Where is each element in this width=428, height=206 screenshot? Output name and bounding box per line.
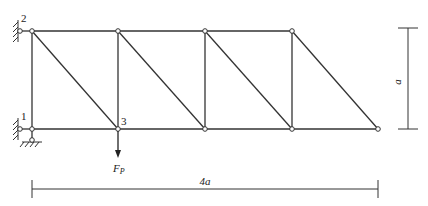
- joint-node: [290, 127, 295, 132]
- vertical-dimension-label: a: [391, 79, 403, 85]
- joint-node: [116, 29, 121, 34]
- diagonal-member: [292, 31, 378, 129]
- node-label-3: 3: [121, 115, 127, 127]
- horizontal-dimension-label: 4a: [200, 175, 212, 187]
- diagonal-member: [205, 31, 292, 129]
- joint-node: [203, 29, 208, 34]
- hinge-icon: [18, 127, 23, 132]
- vertical-dimension: [398, 28, 418, 129]
- load-label: FP: [112, 162, 125, 176]
- joint-node: [290, 29, 295, 34]
- node-label-1: 1: [21, 110, 27, 122]
- node-label-2: 2: [21, 12, 27, 24]
- joint-node: [116, 127, 121, 132]
- diagonal-member: [118, 31, 205, 129]
- joint-node: [376, 127, 381, 132]
- ground-support: [20, 142, 42, 147]
- truss-diagram: 2 1 3 FP a 4a: [0, 0, 428, 206]
- diagonal-member: [32, 31, 118, 129]
- joint-node: [30, 127, 35, 132]
- load-arrow-icon: [115, 131, 121, 158]
- joint-node: [203, 127, 208, 132]
- hinge-icon: [30, 138, 35, 143]
- hinge-icon: [18, 29, 23, 34]
- joint-node: [30, 29, 35, 34]
